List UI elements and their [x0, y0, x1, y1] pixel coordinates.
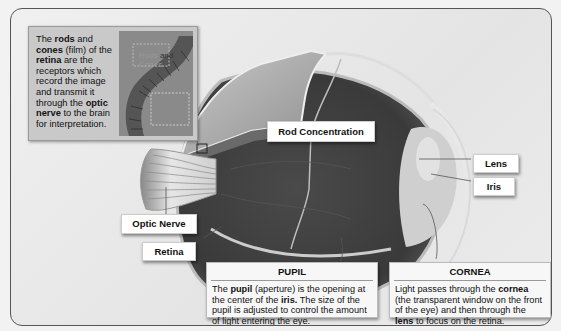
rods-and-cones-label: Rods and Cones: [139, 51, 173, 69]
cornea-description: Light passes through the cornea (the tra…: [390, 281, 550, 326]
iris-label: Iris: [473, 177, 515, 196]
retina-label: Retina: [142, 242, 196, 261]
pupil-description: The pupil (aperture) is the opening at t…: [207, 281, 377, 326]
rods-cones-illustration: [119, 31, 193, 136]
optic-nerve-label: Optic Nerve: [121, 214, 197, 234]
inset-description: The rods and cones (film) of the retina …: [36, 34, 116, 129]
cornea-title: CORNEA: [394, 263, 546, 281]
pupil-callout: PUPIL The pupil (aperture) is the openin…: [206, 262, 378, 318]
rod-concentration-label: Rod Concentration: [267, 121, 375, 142]
diagram-frame: The rods and cones (film) of the retina …: [10, 8, 552, 326]
cornea-callout: CORNEA Light passes through the cornea (…: [389, 262, 551, 318]
retina-detail-inset: The rods and cones (film) of the retina …: [28, 26, 198, 141]
pupil-title: PUPIL: [211, 263, 373, 281]
lens-label: Lens: [473, 154, 519, 173]
